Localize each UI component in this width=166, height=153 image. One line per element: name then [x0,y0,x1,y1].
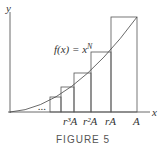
tick-r3A: r³A [63,115,78,127]
y-axis-label: y [5,2,11,14]
x-axis-label: x [151,106,157,118]
tick-r2A: r²A [83,115,98,127]
rectangles [50,17,137,112]
figure-5-diagram: y x f(x) = xN ... r³A r²A rA A FIGURE 5 [0,0,166,153]
ellipsis: ... [38,100,46,112]
tick-rA: rA [105,115,116,127]
tick-A: A [132,115,140,127]
function-label: f(x) = xN [54,42,93,56]
curve [10,17,137,112]
caption: FIGURE 5 [56,134,110,145]
